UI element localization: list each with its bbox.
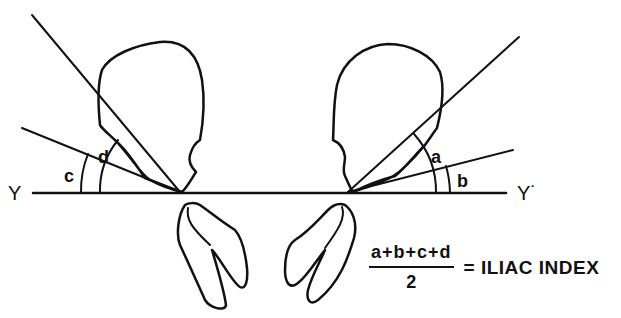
formula-numerator: a+b+c+d [369,242,454,268]
left-pubis-inner-line [188,208,210,245]
formula-denominator: 2 [406,268,416,293]
angle-label-a: a [431,148,441,166]
right-pubis-outline [285,204,355,302]
left-ilium-inner-line [118,143,182,192]
angle-arc-b [446,166,450,193]
angle-label-c: c [64,167,74,185]
formula-result: = ILIAC INDEX [464,257,600,279]
angle-label-d: d [98,148,109,166]
angle-label-b: b [457,172,468,190]
iliac-index-diagram: Y Y˙ c d a b a+b+c+d 2 = ILIAC INDEX [0,0,621,318]
right-pubis-inner-line [325,207,343,248]
label-y-left: Y [8,183,21,203]
iliac-index-formula: a+b+c+d 2 = ILIAC INDEX [369,242,599,293]
formula-fraction: a+b+c+d 2 [369,242,454,293]
right-ilium-inner-line [353,145,425,192]
left-ilium-outline [98,42,203,192]
label-y-right: Y˙ [517,183,537,203]
right-ilium-outline [333,44,443,192]
angle-arc-c [81,154,88,193]
